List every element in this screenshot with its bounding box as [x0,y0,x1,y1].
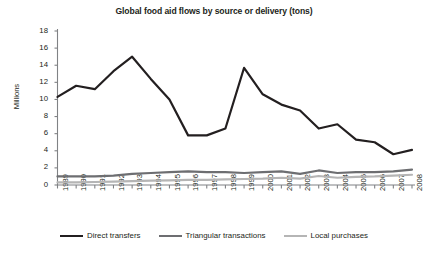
axis-lines [58,29,416,185]
legend-item-local-purchases[interactable]: Local purchases [284,231,368,240]
series-line-triangular-transactions [58,170,413,177]
chart-container: Global food aid flows by source or deliv… [0,0,428,253]
tick-marks [55,31,413,189]
legend-swatch [159,235,182,237]
chart-legend: Direct transfersTriangular transactionsL… [0,231,428,240]
legend-swatch [60,235,83,237]
series-line-direct-transfers [58,57,413,155]
legend-label: Triangular transactions [186,231,266,240]
legend-item-triangular-transactions[interactable]: Triangular transactions [159,231,266,240]
legend-swatch [284,235,307,237]
legend-label: Local purchases [311,231,368,240]
plot-area [0,0,428,253]
legend-item-direct-transfers[interactable]: Direct transfers [60,231,141,240]
legend-label: Direct transfers [87,231,141,240]
series-lines [58,57,413,183]
